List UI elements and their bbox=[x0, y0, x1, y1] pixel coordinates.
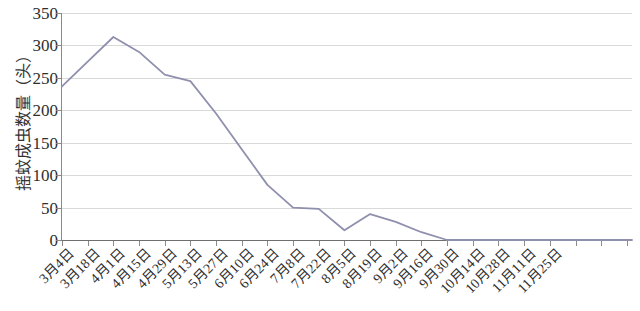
series-line-chironomid-adults bbox=[62, 13, 632, 240]
x-axis-tick-mark bbox=[601, 241, 602, 246]
y-axis-tick-mark bbox=[56, 45, 62, 46]
x-axis-tick-mark bbox=[550, 241, 551, 246]
y-axis-tick-label: 250 bbox=[22, 70, 58, 87]
y-axis-tick-mark bbox=[56, 143, 62, 144]
y-axis-tick-label: 350 bbox=[22, 5, 58, 22]
y-axis-tick-mark bbox=[56, 110, 62, 111]
x-axis-tick-mark bbox=[190, 241, 191, 246]
x-axis-tick-mark bbox=[216, 241, 217, 246]
y-axis-tick-label: 50 bbox=[22, 200, 58, 217]
x-axis-tick-mark bbox=[473, 241, 474, 246]
x-axis-tick-mark bbox=[62, 241, 63, 246]
y-axis-tick-label: 150 bbox=[22, 135, 58, 152]
x-axis-tick-mark bbox=[293, 241, 294, 246]
y-axis-tick-labels: 350300250200150100500 bbox=[22, 0, 58, 250]
x-axis-tick-mark bbox=[576, 241, 577, 246]
x-axis-tick-mark bbox=[139, 241, 140, 246]
y-axis-tick-label: 200 bbox=[22, 102, 58, 119]
x-axis-tick-mark bbox=[267, 241, 268, 246]
x-axis-tick-labels: 3月4日3月18日4月1日4月15日4月29日5月13日5月27日6月10日6月… bbox=[0, 246, 640, 311]
y-axis-tick-mark bbox=[56, 208, 62, 209]
series-polyline bbox=[62, 37, 632, 240]
plot-area bbox=[62, 13, 632, 240]
y-axis-tick-mark bbox=[56, 13, 62, 14]
x-axis-tick-mark bbox=[319, 241, 320, 246]
x-axis-tick-mark bbox=[242, 241, 243, 246]
x-axis-tick-mark bbox=[421, 241, 422, 246]
y-axis-tick-mark bbox=[56, 175, 62, 176]
y-axis-tick-label: 300 bbox=[22, 37, 58, 54]
x-axis-tick-mark bbox=[627, 241, 628, 246]
x-axis-tick-mark bbox=[396, 241, 397, 246]
x-axis-tick-mark bbox=[524, 241, 525, 246]
x-axis-tick-mark bbox=[344, 241, 345, 246]
y-axis-tick-label: 100 bbox=[22, 167, 58, 184]
x-axis-tick-mark bbox=[370, 241, 371, 246]
x-axis-tick-mark bbox=[498, 241, 499, 246]
x-axis-tick-mark bbox=[88, 241, 89, 246]
x-axis-tick-mark bbox=[447, 241, 448, 246]
x-axis-tick-mark bbox=[113, 241, 114, 246]
y-axis-tick-mark bbox=[56, 78, 62, 79]
line-chart: 摇蚊成虫数量（头） 350300250200150100500 3月4日3月18… bbox=[0, 0, 640, 311]
x-axis-tick-mark bbox=[165, 241, 166, 246]
